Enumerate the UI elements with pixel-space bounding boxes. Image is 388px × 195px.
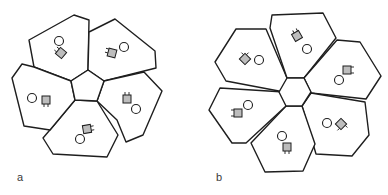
panel-a-circle-symbol: [120, 43, 129, 52]
panel-b-circle-symbol: [323, 119, 332, 128]
panel-b-circle-symbol: [303, 45, 312, 54]
figure-canvas: [0, 0, 388, 195]
panel-b-circle-symbol: [255, 56, 264, 65]
panel-a-diagram: [12, 15, 162, 157]
panel-b-diagram: [209, 13, 381, 172]
panel-a-circle-symbol: [55, 37, 64, 46]
panel-a-circle-symbol: [76, 135, 85, 144]
panel-a-circle-symbol: [132, 105, 141, 114]
panel-b-circle-symbol: [335, 76, 344, 85]
panel-b-label: b: [216, 171, 222, 183]
panel-b-circle-symbol: [278, 132, 287, 141]
panel-a-label: a: [17, 171, 23, 183]
panel-b-circle-symbol: [244, 101, 253, 110]
panel-a-circle-symbol: [28, 94, 37, 103]
